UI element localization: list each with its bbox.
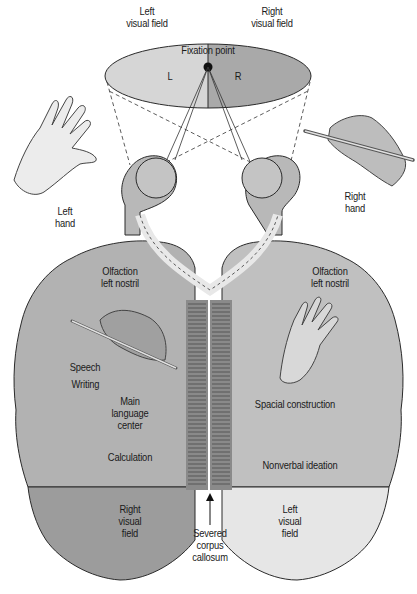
right-hand-label: Right hand — [334, 190, 377, 214]
right-field-letter: R — [230, 70, 247, 82]
right-visual-field-label: Right visual field — [105, 503, 156, 539]
left-visual-field-label: Left visual field — [265, 503, 316, 539]
left-hand-icon — [14, 97, 96, 195]
main-language-center-label: Main language center — [105, 395, 156, 431]
writing-label: Writing — [62, 378, 109, 390]
left-field-letter: L — [162, 70, 179, 82]
split-brain-diagram — [0, 0, 417, 594]
speech-label: Speech — [64, 361, 107, 373]
olfaction-left-label: Olfaction left nostril — [86, 265, 154, 289]
calculation-label: Calculation — [100, 451, 160, 463]
left-hand-label: Left hand — [44, 205, 87, 229]
corpus-callosum — [186, 300, 232, 490]
callosum-arrow — [206, 493, 214, 525]
severed-corpus-callosum-label: Severed corpus callosum — [185, 527, 236, 563]
left-visual-field-title: Left visual field — [117, 5, 177, 29]
olfaction-right-label: Olfaction left nostril — [296, 265, 364, 289]
spatial-construction-label: Spacial construction — [248, 398, 342, 410]
fixation-point-label: Fixation point — [174, 44, 242, 56]
right-visual-field-title: Right visual field — [242, 5, 302, 29]
nonverbal-ideation-label: Nonverbal ideation — [258, 459, 343, 471]
right-hand-pencil-icon — [305, 116, 413, 186]
